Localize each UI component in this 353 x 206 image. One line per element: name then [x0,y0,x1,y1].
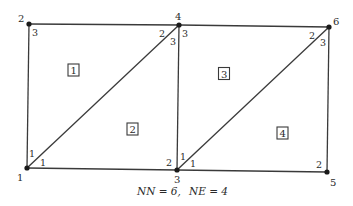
element-label-1: 1 [68,64,79,76]
local-label-e4-n5: 2 [316,159,322,170]
local-label-e4-n3: 1 [190,158,196,169]
edge-1-4-diagonal [27,25,179,168]
node-1 [24,165,29,170]
edge-2-4 [29,24,179,25]
global-label-3: 3 [174,174,180,185]
local-label-e4-n6: 3 [320,37,326,48]
global-label-5: 5 [330,177,336,188]
edge-3-4 [177,25,179,170]
node-6 [326,24,331,29]
mesh-edges [27,24,329,172]
local-label-e3-n3: 1 [180,151,186,162]
local-label-e1-n4: 2 [159,28,165,39]
global-label-2: 2 [18,13,24,24]
node-2 [26,21,31,26]
global-label-1: 1 [17,172,23,183]
svg-text:4: 4 [280,128,286,139]
local-label-e3-n4: 3 [182,28,188,39]
global-label-4: 4 [175,11,181,22]
caption-ne: NE = 4 [188,185,228,197]
caption-nn: NN = 6, [136,185,181,197]
local-label-e2-n1: 1 [40,157,46,168]
edge-4-6 [179,25,329,27]
svg-text:1: 1 [71,65,77,76]
node-5 [324,169,329,174]
edge-1-2 [27,24,29,168]
svg-text:2: 2 [130,124,136,135]
local-label-e1-n1: 1 [29,148,35,159]
edge-3-6-diagonal [177,27,329,170]
element-label-3: 3 [219,68,230,80]
element-label-4: 4 [277,127,288,139]
local-label-e3-n6: 2 [309,30,315,41]
element-label-2: 2 [127,123,138,135]
edge-1-3 [27,168,177,170]
local-label-e1-n2: 3 [32,27,38,38]
node-3 [174,167,179,172]
mesh-diagram: 1 2 3 4 5 6 1 2 3 1 2 3 1 2 3 1 2 3 1 2 [0,0,353,206]
local-label-e2-n3: 2 [166,157,172,168]
edge-5-6 [327,27,329,172]
caption: NN = 6, NE = 4 [136,185,228,197]
local-label-e2-n4: 3 [170,36,176,47]
edge-3-5 [177,170,327,172]
svg-text:3: 3 [221,69,227,80]
global-label-6: 6 [333,16,339,27]
node-4 [176,22,181,27]
